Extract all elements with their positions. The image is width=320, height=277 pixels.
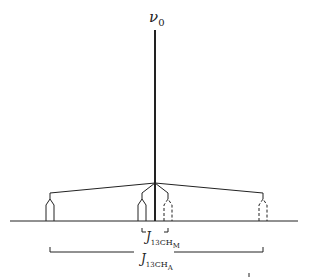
outer-right-peak — [259, 199, 267, 221]
inner-left-branch — [142, 183, 155, 199]
inner-right-peak — [164, 199, 172, 221]
inner-right-branch — [155, 183, 168, 199]
outer-coupling-label: J13CHA — [141, 252, 173, 266]
outer-left-peak — [46, 199, 54, 221]
outer-right-branch — [155, 183, 263, 199]
outer-coupling-bracket-left — [50, 247, 134, 252]
center-frequency-label: ν0 — [149, 8, 165, 28]
outer-coupling-bracket-right — [174, 247, 263, 252]
inner-left-peak — [138, 199, 146, 221]
inner-coupling-label: J13CHM — [146, 230, 180, 244]
outer-left-branch — [50, 183, 155, 199]
